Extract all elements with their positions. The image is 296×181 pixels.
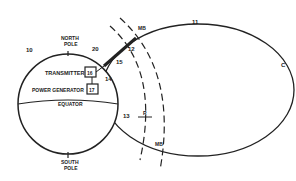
ref-14: 14 (105, 76, 112, 82)
ref-10: 10 (26, 47, 33, 53)
power-generator-label: POWER GENERATOR (32, 87, 84, 93)
transmitter-label: TRANSMITTER (45, 70, 84, 76)
ref-12: 12 (128, 46, 135, 52)
north-pole-label-2: POLE (64, 41, 78, 47)
magnetic-shell-outer (120, 18, 164, 170)
ref-11: 11 (192, 19, 199, 25)
power-generator-ref: 17 (89, 87, 95, 93)
ref-mb-top: MB (138, 25, 146, 31)
ref-c: C (281, 62, 286, 68)
ref-mb-bottom: MB (155, 141, 163, 147)
equator-label: EQUATOR (58, 101, 83, 107)
south-pole-label-2: POLE (64, 165, 78, 171)
transmitter-ref: 16 (87, 70, 93, 76)
ref-15: 15 (116, 59, 123, 65)
ref-20: 20 (92, 46, 99, 52)
ref-13: 13 (123, 113, 130, 119)
ref-r: R (143, 110, 147, 116)
diagram-canvas: NORTH POLE SOUTH POLE EQUATOR TRANSMITTE… (0, 0, 296, 181)
